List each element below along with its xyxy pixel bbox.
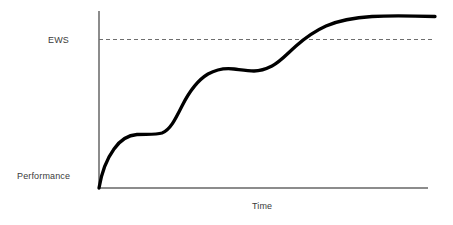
chart-canvas: EWS Performance Time	[0, 0, 453, 225]
x-axis-title-time: Time	[252, 201, 272, 211]
performance-curve	[99, 16, 435, 188]
y-axis-title-performance: Performance	[17, 171, 70, 181]
ews-threshold-label: EWS	[48, 35, 69, 45]
performance-time-line-chart	[0, 0, 453, 225]
